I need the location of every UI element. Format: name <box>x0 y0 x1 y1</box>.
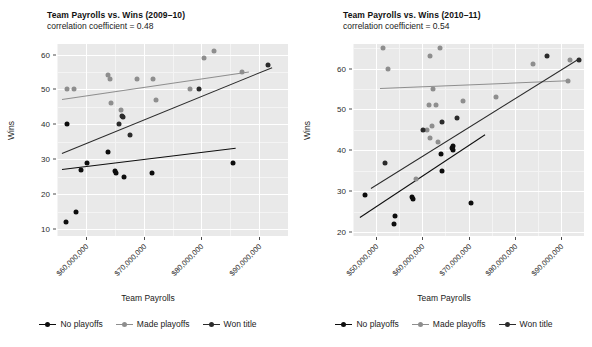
y-axis-tick-mark <box>53 159 56 160</box>
legend-dot-glyph <box>505 322 510 327</box>
gridline-minor-vertical <box>399 44 400 236</box>
data-point <box>392 221 397 226</box>
data-point <box>135 76 140 81</box>
data-point <box>410 197 415 202</box>
y-axis-tick-mark <box>349 231 352 232</box>
legend-item-won-title[interactable]: Won title <box>499 319 553 329</box>
legend-key-icon <box>39 319 56 329</box>
y-axis-tick-label: 10 <box>41 225 50 234</box>
data-point <box>381 46 386 51</box>
gridline-minor-vertical <box>492 44 493 236</box>
x-axis-tick-mark <box>144 237 145 240</box>
y-axis-tick-mark <box>53 124 56 125</box>
y-axis-tick-mark <box>349 191 352 192</box>
data-point <box>212 49 217 54</box>
gridline-major-horizontal <box>57 159 288 160</box>
data-point <box>108 101 113 106</box>
data-point <box>74 209 79 214</box>
legend-item-made-playoffs[interactable]: Made playoffs <box>116 319 190 329</box>
x-axis-tick-mark <box>259 237 260 240</box>
gridline-major-vertical <box>144 44 145 236</box>
legend-item-no-playoffs[interactable]: No playoffs <box>335 319 398 329</box>
chart-subtitle-right: correlation coefficient = 0.54 <box>343 21 588 32</box>
data-point <box>450 144 455 149</box>
plot-area-left <box>57 44 288 236</box>
chart-title-right: Team Payrolls vs. Wins (2010–11) <box>343 10 588 21</box>
x-axis-tick-label: $50,000,000 <box>345 242 381 278</box>
x-axis-title-left: Team Payrolls <box>0 293 296 303</box>
data-point <box>439 168 444 173</box>
y-axis-tick-label: 60 <box>41 50 50 59</box>
legend-key-icon <box>335 319 352 329</box>
data-point <box>430 123 435 128</box>
data-point <box>430 86 435 91</box>
data-point <box>434 103 439 108</box>
data-point <box>436 140 441 145</box>
y-axis-title-right: Wins <box>302 121 312 140</box>
data-point <box>576 58 581 63</box>
plot-panel-right <box>353 44 584 236</box>
data-point <box>196 87 201 92</box>
x-axis-tick-label: $80,000,000 <box>483 242 519 278</box>
x-axis-tick-mark <box>201 237 202 240</box>
data-point <box>414 176 419 181</box>
data-point <box>437 46 442 51</box>
data-point <box>119 108 124 113</box>
chart-page: Team Payrolls vs. Wins (2009–10) correla… <box>0 0 592 347</box>
gridline-minor-vertical <box>538 44 539 236</box>
y-axis-tick-label: 30 <box>41 155 50 164</box>
data-point <box>428 136 433 141</box>
plot-panel-left <box>57 44 288 236</box>
y-axis-tick-mark <box>349 68 352 69</box>
gridline-major-vertical <box>201 44 202 236</box>
x-axis-title-right: Team Payrolls <box>296 293 592 303</box>
x-axis-tick-mark <box>422 237 423 240</box>
gridline-major-horizontal <box>57 194 288 195</box>
data-point <box>494 95 499 100</box>
legend-item-won-title[interactable]: Won title <box>203 319 257 329</box>
plot-area-right <box>353 44 584 236</box>
y-axis-tick-label: 60 <box>337 64 346 73</box>
data-point <box>265 62 270 67</box>
data-point <box>460 99 465 104</box>
data-point <box>438 152 443 157</box>
data-point <box>568 58 573 63</box>
data-point <box>386 66 391 71</box>
data-point <box>201 56 206 61</box>
y-axis-tick-mark <box>53 54 56 55</box>
legend-item-label: No playoffs <box>60 319 102 329</box>
gridline-major-horizontal <box>57 124 288 125</box>
legend-item-made-playoffs[interactable]: Made playoffs <box>412 319 486 329</box>
gridline-minor-vertical <box>173 44 174 236</box>
data-point <box>79 167 84 172</box>
y-axis-tick-label: 40 <box>41 120 50 129</box>
data-point <box>117 122 122 127</box>
x-axis-tick-label: $60,000,000 <box>54 242 90 278</box>
data-point <box>106 150 111 155</box>
x-axis-tick-mark <box>376 237 377 240</box>
data-point <box>469 201 474 206</box>
data-point <box>151 76 156 81</box>
y-axis-tick-mark <box>53 229 56 230</box>
data-point <box>565 78 570 83</box>
x-axis-tick-mark <box>561 237 562 240</box>
legend-item-no-playoffs[interactable]: No playoffs <box>39 319 102 329</box>
x-axis-tick-label: $90,000,000 <box>529 242 565 278</box>
legend-dot-glyph <box>341 322 346 327</box>
trend-line-made <box>62 72 249 101</box>
trend-line-won <box>370 58 579 189</box>
data-point <box>427 103 432 108</box>
x-axis-tick-label: $90,000,000 <box>228 242 264 278</box>
data-point <box>362 193 367 198</box>
gridline-minor-vertical <box>57 44 58 236</box>
legend-dot-glyph <box>45 322 50 327</box>
data-point <box>85 160 90 165</box>
x-axis-tick-label: $70,000,000 <box>437 242 473 278</box>
x-axis-tick-mark <box>515 237 516 240</box>
legend-key-icon <box>412 319 429 329</box>
x-axis-tick-label: $80,000,000 <box>170 242 206 278</box>
data-point <box>64 220 69 225</box>
data-point <box>65 122 70 127</box>
data-point <box>545 54 550 59</box>
gridline-major-horizontal <box>57 89 288 90</box>
